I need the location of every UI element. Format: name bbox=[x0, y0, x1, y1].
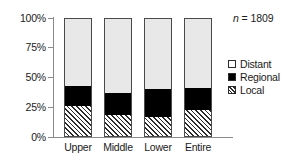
segment-regional-middle bbox=[105, 93, 131, 115]
segment-regional-entire bbox=[185, 88, 211, 110]
bar-group-entire bbox=[184, 18, 212, 137]
y-tick-label-75: 75% bbox=[26, 41, 46, 53]
y-tick-mark-100 bbox=[48, 18, 53, 19]
segment-distant-lower bbox=[145, 19, 171, 89]
stacked-bar-middle[interactable] bbox=[104, 18, 132, 137]
segment-distant-middle bbox=[105, 19, 131, 93]
legend-swatch-distant-icon bbox=[228, 60, 236, 68]
bar-group-lower bbox=[144, 18, 172, 137]
y-tick-label-0: 0% bbox=[31, 131, 46, 143]
stacked-bar-entire[interactable] bbox=[184, 18, 212, 137]
y-tick-mark-50 bbox=[48, 77, 53, 78]
y-tick-mark-75 bbox=[48, 47, 53, 48]
segment-local-entire bbox=[185, 110, 211, 136]
segment-regional-lower bbox=[145, 89, 171, 117]
x-tick-label-entire: Entire bbox=[171, 141, 225, 153]
y-tick-mark-0 bbox=[48, 137, 53, 138]
segment-local-upper bbox=[65, 106, 91, 136]
legend: Distant Regional Local bbox=[228, 58, 280, 97]
chart-figure: 100% 75% 50% 25% 0% bbox=[0, 0, 297, 164]
legend-item-local[interactable]: Local bbox=[228, 84, 280, 96]
y-tick-label-25: 25% bbox=[26, 101, 46, 113]
stacked-bar-lower[interactable] bbox=[144, 18, 172, 137]
sample-size-value: = 1809 bbox=[239, 12, 274, 24]
plot-area bbox=[56, 18, 212, 137]
legend-item-regional[interactable]: Regional bbox=[228, 71, 280, 83]
legend-item-distant[interactable]: Distant bbox=[228, 58, 280, 70]
y-tick-label-100: 100% bbox=[20, 12, 46, 24]
segment-distant-upper bbox=[65, 19, 91, 86]
y-axis-labels: 100% 75% 50% 25% 0% bbox=[6, 0, 46, 164]
segment-local-lower bbox=[145, 117, 171, 136]
stacked-bar-upper[interactable] bbox=[64, 18, 92, 137]
segment-local-middle bbox=[105, 115, 131, 136]
segment-distant-entire bbox=[185, 19, 211, 88]
legend-swatch-local-icon bbox=[228, 86, 236, 94]
legend-label-regional: Regional bbox=[240, 71, 280, 83]
x-axis-line bbox=[53, 137, 233, 138]
y-tick-label-50: 50% bbox=[26, 71, 46, 83]
y-tick-mark-25 bbox=[48, 107, 53, 108]
bar-group-middle bbox=[104, 18, 132, 137]
segment-regional-upper bbox=[65, 86, 91, 106]
bar-group-upper bbox=[64, 18, 92, 137]
legend-label-distant: Distant bbox=[240, 58, 271, 70]
legend-label-local: Local bbox=[240, 84, 264, 96]
y-axis-line bbox=[53, 17, 54, 138]
legend-swatch-regional-icon bbox=[228, 73, 236, 81]
sample-size-annotation: n = 1809 bbox=[233, 12, 273, 24]
